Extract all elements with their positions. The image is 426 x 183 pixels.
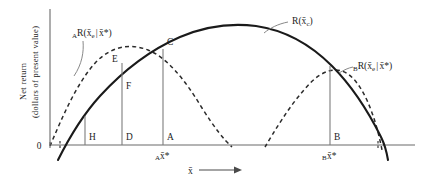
curve-label-b-cond: x̄*	[379, 60, 389, 71]
curve-label-a-main: R(x̄	[77, 27, 92, 39]
origin-label: 0	[37, 141, 42, 151]
curve-label-a-group: AR(x̄e|x̄*)	[72, 27, 112, 76]
curve-label-a-tail: )	[108, 27, 111, 39]
curve-label-a-sub: e	[91, 32, 94, 40]
x-tick-label-a-value: x̄*	[160, 151, 170, 161]
curve-dashed-a	[50, 46, 232, 147]
y-axis-label-line2: (dollars of present value)	[31, 26, 40, 118]
curve-label-a-cond: x̄*	[99, 27, 109, 38]
curve-label-b-group: BR(x̄e|x̄*)	[339, 60, 392, 73]
curve-label-combined: R(x̄c)	[292, 15, 313, 28]
x-tick-label-a: A x̄*	[155, 151, 170, 162]
curve-label-combined-main: R(x̄	[292, 15, 307, 27]
curve-label-b: BR(x̄e|x̄*)	[353, 60, 392, 73]
x-axis-arrow-head	[234, 167, 242, 174]
curve-label-b-main: R(x̄	[358, 60, 373, 72]
net-return-chart: Net return (dollars of present value) 0 …	[0, 0, 426, 183]
x-tick-label-b: B x̄*	[322, 151, 337, 162]
x-axis-label: x̄	[188, 165, 193, 176]
curve-label-combined-tail: )	[310, 15, 313, 27]
label-point-d: D	[126, 132, 133, 142]
curve-label-a-bar: |	[96, 27, 98, 38]
chart-figure: Net return (dollars of present value) 0 …	[0, 0, 426, 183]
label-point-e: E	[112, 54, 118, 64]
curve-label-b-tail: )	[389, 60, 392, 72]
label-point-f: F	[126, 81, 131, 91]
y-axis-label-group: Net return (dollars of present value)	[19, 26, 40, 118]
curve-label-b-bar: |	[376, 60, 378, 71]
curve-dashed-b	[265, 70, 382, 150]
leader-line-a	[74, 41, 83, 76]
curve-label-a: AR(x̄e|x̄*)	[72, 27, 112, 40]
curve-label-combined-group: R(x̄c)	[264, 15, 313, 33]
vertical-reference-lines	[85, 49, 330, 145]
x-axis-label-group: x̄	[188, 165, 242, 176]
label-point-h: H	[89, 132, 96, 142]
x-tick-labels: A x̄* B x̄*	[155, 151, 337, 162]
y-axis-label-line1: Net return	[19, 62, 28, 100]
label-point-a: A	[167, 132, 174, 142]
label-point-c: C	[167, 37, 173, 47]
label-point-b: B	[334, 132, 340, 142]
curve-label-b-sub: e	[372, 65, 375, 73]
x-tick-label-b-value: x̄*	[327, 151, 337, 161]
